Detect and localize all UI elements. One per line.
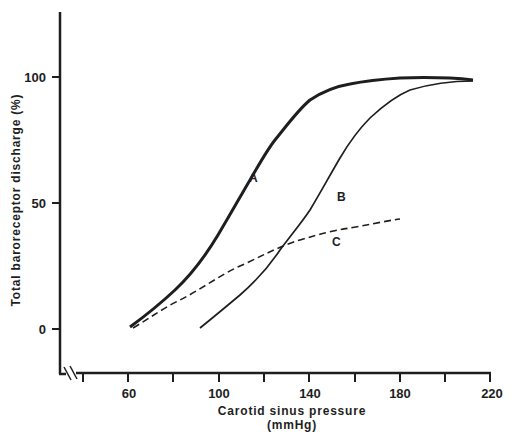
x-axis-title: Carotid sinus pressure	[218, 404, 366, 418]
curve-a	[130, 78, 473, 327]
x-tick-label-220: 220	[481, 386, 503, 401]
y-tick-label-0: 0	[39, 322, 46, 337]
x-axis-units: (mmHg)	[267, 418, 317, 432]
x-tick-label-180: 180	[389, 386, 411, 401]
x-tick-label-140: 140	[299, 386, 321, 401]
curve-b-label: B	[337, 190, 346, 204]
y-tick-label-50: 50	[32, 196, 46, 211]
y-tick-label-100: 100	[24, 70, 46, 85]
x-ticks	[83, 373, 490, 382]
curve-b	[200, 81, 473, 328]
curve-a-label: A	[249, 171, 258, 185]
y-axis-title: Total baroreceptor discharge (%)	[9, 94, 23, 307]
x-tick-label-60: 60	[122, 386, 136, 401]
curve-c-label: C	[332, 235, 341, 249]
x-tick-label-100: 100	[208, 386, 230, 401]
curve-c	[133, 219, 400, 328]
baroreceptor-chart: 0 50 100 60 100 140 180 220 Carotid sinu…	[0, 0, 515, 435]
